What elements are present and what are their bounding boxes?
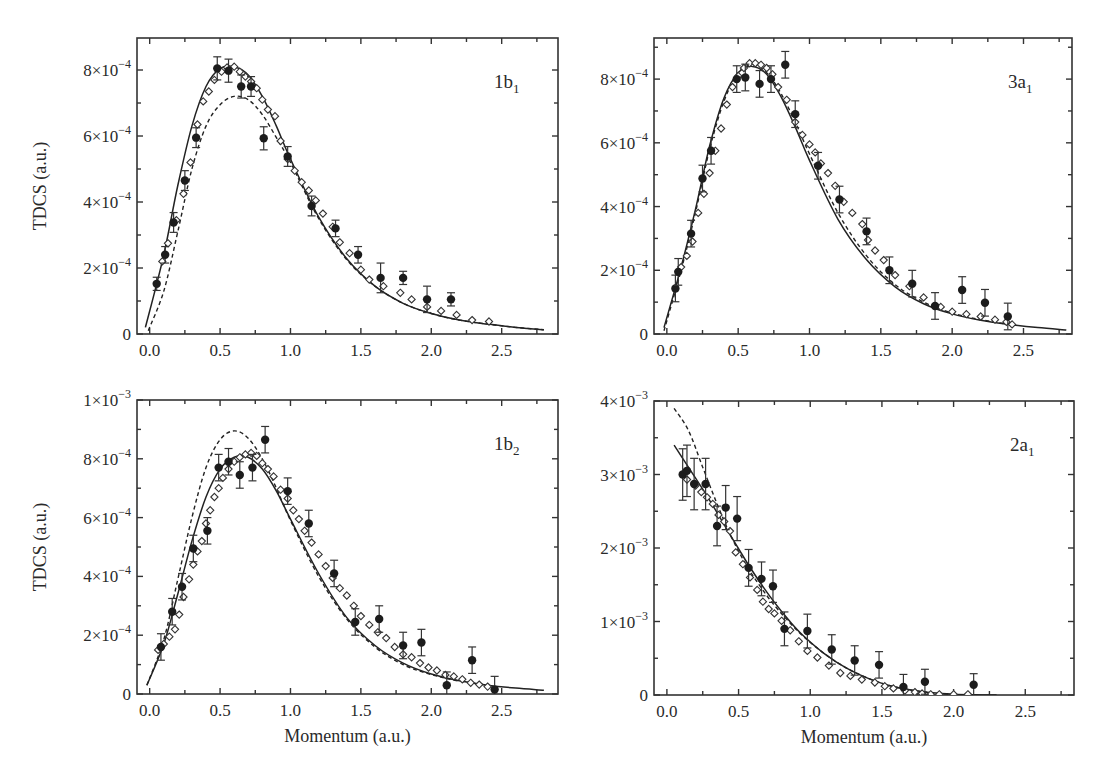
x-tick-label: 0.5 — [209, 341, 230, 360]
y-tick-label: 6×10−4 — [83, 505, 131, 528]
panel-1b1: 0.00.51.01.52.02.502×10−44×10−46×10−48×1… — [30, 38, 558, 360]
panel-2a1: 0.00.51.01.52.02.501×10−32×10−33×10−34×1… — [600, 388, 1074, 748]
y-tick-label: 2×10−4 — [83, 255, 131, 278]
y-tick-label: 1×10−3 — [83, 387, 131, 410]
x-tick-label: 2.0 — [421, 701, 442, 720]
x-axis: 0.00.51.01.52.02.5 — [656, 38, 1059, 360]
panel-label: 2a1 — [1010, 434, 1034, 459]
x-tick-label: 1.5 — [350, 341, 371, 360]
y-tick-label: 4×10−3 — [600, 388, 648, 411]
theory-dashed-curve — [674, 408, 954, 694]
y-tick-label: 8×10−4 — [600, 66, 648, 89]
theory-dashed-curve — [147, 431, 488, 685]
x-tick-label: 1.0 — [800, 702, 821, 721]
panel-label: 1b2 — [494, 433, 520, 458]
x-tick-label: 0.0 — [656, 341, 677, 360]
y-tick-label: 6×10−4 — [83, 123, 131, 146]
x-tick-label: 1.0 — [280, 701, 301, 720]
panel-label: 1b1 — [494, 71, 520, 96]
x-tick-label: 0.0 — [139, 701, 160, 720]
x-tick-label: 0.5 — [209, 701, 230, 720]
plot-area — [147, 426, 544, 702]
y-tick-label: 0 — [123, 685, 132, 704]
y-tick-label: 8×10−4 — [83, 57, 131, 80]
y-tick-label: 2×10−3 — [600, 535, 648, 558]
x-tick-label: 0.5 — [728, 702, 749, 721]
x-axis: 0.00.51.01.52.02.5 — [656, 401, 1061, 721]
y-axis: 01×10−32×10−33×10−34×10−3 — [600, 388, 1074, 705]
x-tick-label: 2.5 — [1015, 702, 1036, 721]
experiment-points — [678, 445, 977, 699]
y-axis: 02×10−44×10−46×10−48×10−4 — [600, 47, 1072, 344]
x-tick-label: 2.0 — [943, 702, 964, 721]
x-tick-label: 0.5 — [728, 341, 749, 360]
x-tick-label: 1.5 — [870, 341, 891, 360]
theory-dashed-curve — [148, 96, 544, 331]
theory-solid-curve — [674, 445, 997, 695]
x-tick-label: 1.0 — [799, 341, 820, 360]
x-tick-label: 1.5 — [350, 701, 371, 720]
figure: 0.00.51.01.52.02.502×10−44×10−46×10−48×1… — [0, 0, 1105, 778]
y-tick-label: 0 — [640, 325, 649, 344]
y-tick-label: 0 — [640, 686, 649, 705]
plot-area — [664, 51, 1066, 330]
plot-area — [674, 408, 997, 699]
theory-diamonds — [155, 449, 492, 690]
x-tick-label: 2.0 — [942, 341, 963, 360]
y-axis-title: TDCS (a.u.) — [30, 503, 51, 592]
experiment-points — [671, 51, 1012, 329]
experiment-points — [153, 57, 456, 313]
x-axis: 0.00.51.01.52.02.5 — [139, 38, 537, 360]
theory-diamonds — [159, 63, 493, 325]
panel-3a1: 0.00.51.01.52.02.502×10−44×10−46×10−48×1… — [600, 38, 1072, 360]
x-tick-label: 1.5 — [871, 702, 892, 721]
y-axis: 02×10−44×10−46×10−48×10−41×10−3 — [83, 387, 558, 704]
y-tick-label: 4×10−4 — [83, 189, 131, 212]
y-tick-label: 4×10−4 — [600, 194, 648, 217]
x-tick-label: 2.5 — [1013, 341, 1034, 360]
y-tick-label: 4×10−4 — [83, 563, 131, 586]
x-axis-title: Momentum (a.u.) — [801, 727, 927, 748]
x-tick-label: 0.0 — [656, 702, 677, 721]
y-tick-label: 0 — [123, 325, 132, 344]
theory-solid-curve — [145, 66, 544, 330]
y-tick-label: 3×10−3 — [600, 462, 648, 485]
y-tick-label: 6×10−4 — [600, 130, 648, 153]
plot-area — [145, 57, 544, 331]
x-axis-title: Momentum (a.u.) — [284, 726, 410, 747]
y-axis: 02×10−44×10−46×10−48×10−4 — [83, 57, 558, 344]
x-tick-label: 2.5 — [491, 341, 512, 360]
x-tick-label: 0.0 — [139, 341, 160, 360]
y-tick-label: 1×10−3 — [600, 609, 648, 632]
y-tick-label: 2×10−4 — [83, 622, 131, 645]
x-tick-label: 2.5 — [491, 701, 512, 720]
y-axis-title: TDCS (a.u.) — [30, 142, 51, 231]
theory-solid-curve — [147, 456, 544, 690]
panel-1b2: 0.00.51.01.52.02.502×10−44×10−46×10−48×1… — [30, 387, 558, 747]
x-tick-label: 2.0 — [421, 341, 442, 360]
x-tick-label: 1.0 — [280, 341, 301, 360]
y-tick-label: 2×10−4 — [600, 257, 648, 280]
panel-label: 3a1 — [1008, 71, 1032, 96]
y-tick-label: 8×10−4 — [83, 446, 131, 469]
